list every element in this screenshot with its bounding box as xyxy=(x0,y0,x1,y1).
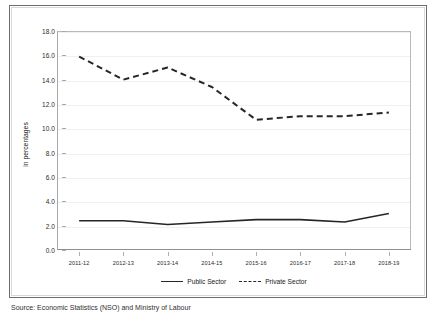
x-tick-label: 2016-17 xyxy=(290,260,311,266)
legend-swatch-dashed-line-icon xyxy=(239,281,261,282)
y-tick-label: 10.0 xyxy=(15,125,55,132)
figure-caption: Source: Economic Statistics (NSO) and Mi… xyxy=(11,304,431,314)
legend-label: Private Sector xyxy=(265,278,306,285)
x-tick-mark xyxy=(79,252,80,256)
x-tick-label: 2012-13 xyxy=(113,260,134,266)
x-tick-label: 2018-19 xyxy=(378,260,399,266)
legend-item-public-sector[interactable]: Public Sector xyxy=(161,278,226,285)
series-line-public-sector xyxy=(79,214,389,225)
y-tick-label: 2.0 xyxy=(15,222,55,229)
y-tick-label: 18.0 xyxy=(15,28,55,35)
x-tick-mark xyxy=(123,252,124,256)
series-line-private-sector xyxy=(79,57,389,120)
y-axis-ticks: in percentages 0.02.04.06.08.010.012.014… xyxy=(9,31,55,250)
y-tick-mark xyxy=(62,250,66,251)
x-tick-label: 2014-15 xyxy=(201,260,222,266)
x-tick-mark xyxy=(345,252,346,256)
y-tick-label: 12.0 xyxy=(15,101,55,108)
x-axis-ticks: 2011-122012-132013-142014-152015-162016-… xyxy=(57,252,411,268)
chart-legend: Public SectorPrivate Sector xyxy=(57,278,411,285)
y-tick-label: 0.0 xyxy=(15,247,55,254)
y-tick-label: 16.0 xyxy=(15,52,55,59)
x-tick-label: 2011-12 xyxy=(69,260,90,266)
x-tick-label: 2013-14 xyxy=(157,260,178,266)
x-tick-mark xyxy=(300,252,301,256)
y-tick-label: 14.0 xyxy=(15,76,55,83)
x-tick-mark xyxy=(389,252,390,256)
x-tick-label: 2017-18 xyxy=(334,260,355,266)
y-tick-label: 8.0 xyxy=(15,149,55,156)
legend-swatch-solid-line-icon xyxy=(161,281,183,282)
y-tick-label: 4.0 xyxy=(15,198,55,205)
x-tick-label: 2015-16 xyxy=(246,260,267,266)
series-lines xyxy=(57,31,411,250)
legend-item-private-sector[interactable]: Private Sector xyxy=(239,278,306,285)
x-tick-mark xyxy=(212,252,213,256)
y-tick-label: 6.0 xyxy=(15,174,55,181)
figure-container: in percentages 0.02.04.06.08.010.012.014… xyxy=(0,0,442,314)
x-tick-mark xyxy=(168,252,169,256)
x-tick-mark xyxy=(256,252,257,256)
legend-label: Public Sector xyxy=(187,278,226,285)
